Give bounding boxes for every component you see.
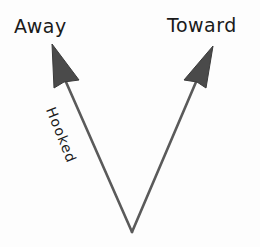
toward-label: Toward xyxy=(167,16,237,35)
toward-arrow-shaft xyxy=(132,82,196,232)
choice-point-diagram: Away Toward Hooked xyxy=(0,0,260,247)
away-arrowhead-icon xyxy=(52,44,79,88)
toward-arrowhead-icon xyxy=(184,46,213,88)
v-arrows xyxy=(0,0,260,247)
away-label: Away xyxy=(14,17,67,36)
